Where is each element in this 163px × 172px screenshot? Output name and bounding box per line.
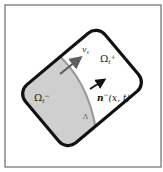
normal-label: n−(x, t) <box>97 91 131 103</box>
figure-frame: vs n−(x, t) Ωt+ Ωt− Λ <box>0 0 163 172</box>
domain-diagram: vs n−(x, t) Ωt+ Ωt− Λ <box>0 0 163 172</box>
interface-label: Λ <box>82 113 89 121</box>
